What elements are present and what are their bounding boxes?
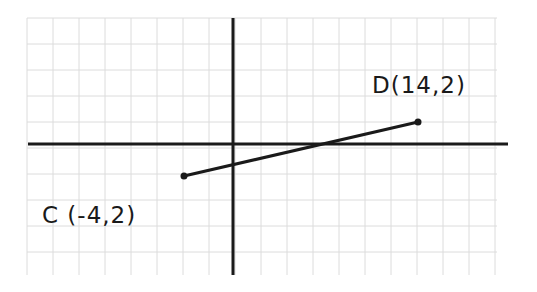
- point-c: [181, 173, 188, 180]
- grid-lines: [27, 18, 497, 275]
- point-d: [415, 119, 422, 126]
- label-point-c: C (-4,2): [42, 202, 136, 228]
- label-point-d: D(14,2): [372, 72, 466, 98]
- segment-cd: [184, 122, 418, 176]
- coordinate-plane: C (-4,2) D(14,2): [0, 0, 537, 292]
